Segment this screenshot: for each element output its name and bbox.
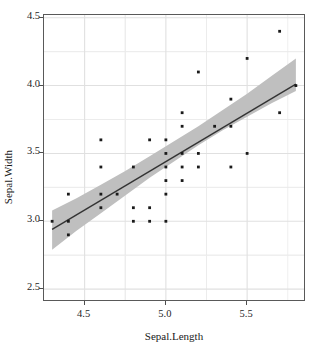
- data-point: [181, 166, 184, 169]
- data-point: [229, 125, 232, 128]
- x-tick-mark: [84, 301, 85, 305]
- data-point: [67, 220, 70, 223]
- x-tick-label: 5.0: [145, 308, 185, 319]
- data-point: [99, 193, 102, 196]
- data-point: [294, 84, 297, 87]
- x-tick-label: 5.5: [226, 308, 266, 319]
- data-point: [246, 152, 249, 155]
- data-point: [99, 138, 102, 141]
- data-point: [148, 220, 151, 223]
- data-point: [181, 111, 184, 114]
- data-point: [229, 166, 232, 169]
- data-point: [148, 138, 151, 141]
- data-point: [181, 179, 184, 182]
- data-point: [164, 220, 167, 223]
- data-point: [164, 166, 167, 169]
- data-point: [229, 98, 232, 101]
- data-point: [132, 166, 135, 169]
- y-tick-label: 2.5: [12, 282, 40, 292]
- data-point: [197, 166, 200, 169]
- y-tick-label-text: 4.5: [16, 11, 40, 21]
- data-point: [197, 71, 200, 74]
- data-point: [99, 206, 102, 209]
- y-tick-label-text: 3.0: [16, 214, 40, 224]
- y-tick-label-text: 2.5: [16, 282, 40, 292]
- data-point: [116, 193, 119, 196]
- data-point: [67, 193, 70, 196]
- data-point: [164, 193, 167, 196]
- y-tick-label: 3.0: [12, 214, 40, 224]
- data-point: [164, 138, 167, 141]
- data-point: [181, 152, 184, 155]
- plot-panel: [43, 14, 305, 301]
- data-point: [181, 125, 184, 128]
- x-tick-label: 4.5: [64, 308, 104, 319]
- x-axis-title: Sepal.Length: [43, 330, 305, 342]
- plot-canvas: [44, 15, 304, 300]
- regression-line: [52, 84, 296, 229]
- x-tick-mark: [165, 301, 166, 305]
- y-tick-label: 3.5: [12, 146, 40, 156]
- data-point: [99, 166, 102, 169]
- data-point: [148, 206, 151, 209]
- data-point: [132, 220, 135, 223]
- y-tick-label-text: 4.0: [16, 79, 40, 89]
- data-point: [278, 111, 281, 114]
- data-point: [278, 30, 281, 33]
- data-point: [164, 152, 167, 155]
- data-point: [67, 233, 70, 236]
- data-point: [197, 152, 200, 155]
- y-tick-label: 4.5: [12, 11, 40, 21]
- data-point: [213, 125, 216, 128]
- data-point: [164, 179, 167, 182]
- y-axis-title: Sepal.Width: [0, 0, 16, 354]
- scatter-plot-figure: Sepal.Width 2.53.03.54.04.5 4.55.05.5 Se…: [0, 0, 313, 354]
- data-point: [51, 220, 54, 223]
- data-point: [246, 57, 249, 60]
- x-tick-mark: [246, 301, 247, 305]
- y-tick-label-text: 3.5: [16, 146, 40, 156]
- data-point: [132, 206, 135, 209]
- y-tick-label: 4.0: [12, 79, 40, 89]
